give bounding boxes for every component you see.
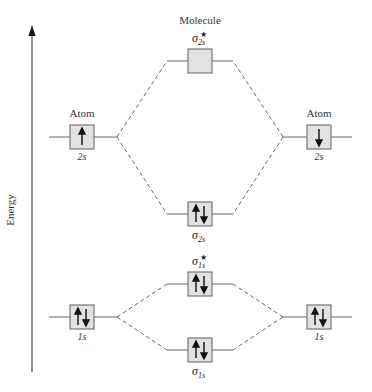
box-sigma-star-2s: [188, 49, 212, 73]
energy-axis: [29, 25, 36, 372]
header-atom-right: Atom: [294, 107, 344, 119]
header-molecule: Molecule: [170, 14, 230, 26]
axis-arrowhead-icon: [29, 25, 36, 36]
box-left-1s: [70, 305, 94, 329]
label-sigma-star-1s: σ1s★: [192, 253, 207, 270]
energy-axis-label: Energy: [4, 194, 16, 226]
label-sigma-star-2s: σ2s★: [192, 30, 207, 47]
orbital-boxes: [70, 49, 331, 362]
label-left-1s: 1s: [72, 331, 92, 342]
box-sigma-2s: [188, 202, 212, 226]
label-sigma-1s: σ1s: [192, 364, 205, 380]
label-sigma-2s: σ2s: [192, 228, 205, 244]
box-sigma-star-1s: [188, 272, 212, 296]
label-right-2s: 2s: [309, 151, 329, 162]
box-right-1s: [307, 305, 331, 329]
label-right-1s: 1s: [309, 331, 329, 342]
header-atom-left: Atom: [57, 107, 107, 119]
label-left-2s: 2s: [72, 151, 92, 162]
box-sigma-1s: [188, 338, 212, 362]
